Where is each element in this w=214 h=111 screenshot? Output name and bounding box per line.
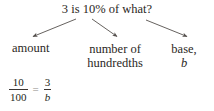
- proportion-equation: 10 100 = 3 b: [9, 76, 51, 103]
- label-hundredths-line1: number of: [74, 42, 156, 56]
- label-number-of-hundredths: number of hundredths: [74, 42, 156, 70]
- percent-proportion-figure: 3 is 10% of what? amount number of hundr…: [0, 0, 214, 111]
- fraction-left-numerator: 10: [12, 76, 25, 88]
- label-base-line1: base,: [160, 42, 208, 56]
- fraction-right-denominator: b: [44, 91, 52, 103]
- equals-sign: =: [33, 84, 39, 96]
- arrow-to-amount: [33, 19, 76, 37]
- label-base: base, b: [160, 42, 208, 70]
- label-base-variable: b: [160, 56, 208, 70]
- arrow-to-base: [146, 20, 187, 37]
- arrow-to-hundredths: [92, 19, 117, 37]
- fraction-left-bar: [9, 89, 28, 90]
- label-hundredths-line2: hundredths: [74, 56, 156, 70]
- fraction-right-numerator: 3: [44, 76, 52, 88]
- fraction-right: 3 b: [44, 76, 52, 103]
- fraction-left: 10 100: [9, 76, 28, 103]
- label-amount: amount: [12, 42, 50, 55]
- fraction-right-bar: [44, 89, 52, 90]
- fraction-left-denominator: 100: [9, 91, 28, 103]
